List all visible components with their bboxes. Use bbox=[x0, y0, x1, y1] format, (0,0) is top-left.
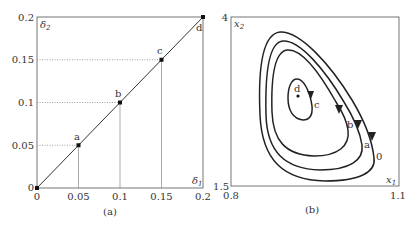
x-tick: 0.2 bbox=[195, 191, 211, 202]
x-tick: 0.8 bbox=[223, 190, 239, 201]
x-axis-label-a: δ1 bbox=[192, 175, 203, 188]
point-label-a: a bbox=[74, 131, 80, 142]
y-tick: 0.1 bbox=[18, 97, 34, 108]
figure: a b c d δ2 δ1 0.2 0.15 0.1 0.05 0 0 0.05… bbox=[0, 0, 419, 230]
dotted-guides bbox=[37, 60, 162, 146]
arrow-icon bbox=[307, 91, 314, 99]
orbit-label-d: d bbox=[294, 83, 301, 94]
orbit-label-0: 0 bbox=[376, 151, 382, 162]
x-tick: 0.1 bbox=[112, 191, 128, 202]
y-tick: 0.05 bbox=[12, 140, 34, 151]
y-tick: 0.15 bbox=[12, 54, 34, 65]
panel-b: 0 a b c d x2 x1 4 1.5 0.8 1.1 (b) bbox=[213, 12, 406, 215]
y-axis-label-a: δ2 bbox=[40, 19, 51, 32]
point-label-c: c bbox=[157, 45, 163, 56]
orbit-label-b: b bbox=[347, 119, 353, 130]
y-tick: 4 bbox=[222, 12, 228, 23]
vertical-guides bbox=[79, 60, 162, 188]
orbit-label-a: a bbox=[364, 139, 370, 150]
orbit-label-c: c bbox=[314, 99, 320, 110]
x-axis-label-b: x1 bbox=[386, 174, 396, 187]
orbit-b bbox=[272, 50, 348, 156]
caption-a: (a) bbox=[103, 206, 117, 217]
point-label-b: b bbox=[115, 88, 121, 99]
x-tick: 1.1 bbox=[390, 190, 406, 201]
y-tick: 0.2 bbox=[18, 12, 34, 23]
panel-a: a b c d δ2 δ1 0.2 0.15 0.1 0.05 0 0 0.05… bbox=[12, 12, 211, 217]
point-label-d: d bbox=[196, 22, 203, 33]
x-tick: 0.15 bbox=[150, 191, 172, 202]
equilibrium-point-d bbox=[296, 94, 299, 97]
x-tick: 0.05 bbox=[67, 191, 89, 202]
y-axis-label-b: x2 bbox=[234, 18, 245, 31]
caption-b: (b) bbox=[305, 204, 319, 215]
x-tick: 0 bbox=[34, 191, 40, 202]
